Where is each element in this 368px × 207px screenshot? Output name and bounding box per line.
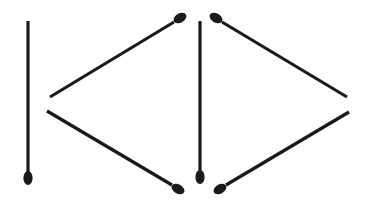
matchstick-lower-left bbox=[47, 111, 186, 197]
matchstick-upper-left bbox=[50, 10, 188, 97]
matchstick-lower-right bbox=[212, 112, 349, 197]
matchstick-body bbox=[222, 22, 347, 97]
matchstick-head-icon bbox=[195, 170, 204, 184]
matchstick-vertical-left bbox=[23, 21, 32, 185]
matchstick-head-icon bbox=[23, 171, 32, 185]
matchstick-canvas bbox=[0, 0, 368, 207]
matchstick-body bbox=[47, 111, 172, 185]
matchstick-vertical-middle bbox=[195, 21, 204, 184]
matchstick-upper-right bbox=[208, 10, 347, 97]
matchstick-body bbox=[226, 112, 349, 185]
matchstick-body bbox=[50, 22, 174, 97]
